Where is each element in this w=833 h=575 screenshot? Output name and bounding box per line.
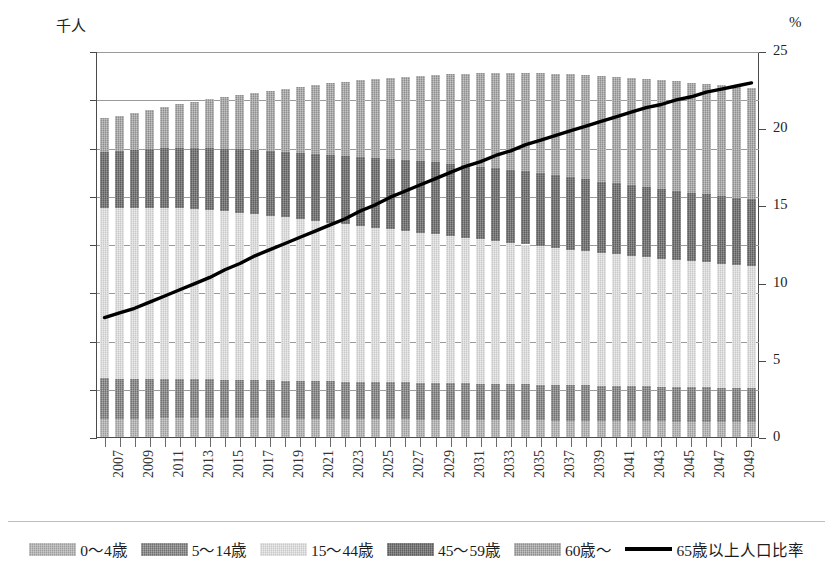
bar-segment [371, 158, 380, 228]
bar-segment [281, 217, 290, 380]
y-tick-left [90, 245, 97, 246]
legend-item[interactable]: 0〜4歳 [29, 538, 128, 560]
legend-color-swatch [29, 543, 76, 556]
x-tick-label: 2027 [411, 450, 427, 478]
bar-segment [627, 185, 636, 255]
bar-segment [687, 422, 696, 437]
bar-segment [597, 76, 606, 181]
x-tick [255, 438, 256, 447]
bar [190, 102, 199, 437]
y-tick-label-right: 5 [773, 351, 833, 368]
bar-segment [341, 419, 350, 437]
bar-segment [747, 199, 756, 266]
y-tick-left [90, 197, 97, 198]
bar-segment [687, 193, 696, 262]
bar-segment [250, 150, 259, 214]
x-tick [120, 438, 121, 447]
legend-item[interactable]: 5〜14歳 [141, 538, 247, 560]
legend-item[interactable]: 65歳以上人口比率 [625, 538, 804, 560]
bar-segment [566, 250, 575, 386]
bar [717, 85, 726, 437]
legend-label: 45〜59歳 [438, 538, 501, 560]
bar-segment [100, 152, 109, 209]
bar-segment [175, 104, 184, 148]
x-tick [676, 438, 677, 447]
bar [160, 107, 169, 437]
x-tick-label: 2019 [291, 450, 307, 478]
bar-segment [612, 183, 621, 254]
bar-segment [461, 383, 470, 419]
legend-item[interactable]: 15〜44歳 [260, 538, 374, 560]
bar [371, 79, 380, 437]
bar-segment [190, 209, 199, 379]
bar-segment [491, 241, 500, 384]
bar-segment [687, 261, 696, 387]
bar [341, 82, 350, 437]
bar-segment [551, 385, 560, 421]
bar-segment [581, 385, 590, 420]
bar-segment [672, 191, 681, 260]
x-tick [541, 438, 542, 447]
bar [687, 83, 696, 437]
x-tick [646, 438, 647, 447]
legend-item[interactable]: 60歳〜 [514, 538, 613, 560]
bar-segment [416, 420, 425, 437]
bar-segment [446, 164, 455, 236]
bar-segment [627, 78, 636, 185]
bar-segment [446, 420, 455, 437]
bar-segment [491, 420, 500, 437]
bar-segment [702, 422, 711, 437]
bar-segment [371, 419, 380, 437]
bar-segment [235, 418, 244, 437]
y-tick-label-right: 25 [773, 42, 833, 59]
bar-segment [702, 84, 711, 194]
bar-segment [702, 194, 711, 262]
y-tick-label-right: 10 [773, 274, 833, 291]
legend-color-swatch [514, 543, 561, 556]
bar-segment [581, 421, 590, 437]
bar-segment [100, 118, 109, 151]
bar [627, 78, 636, 437]
x-tick [706, 438, 707, 447]
bar-segment [175, 208, 184, 379]
bar-segment [371, 228, 380, 382]
bar-segment [341, 382, 350, 419]
bar-segment [642, 257, 651, 386]
bar-segment [581, 179, 590, 251]
bar-segment [747, 266, 756, 388]
bar-segment [220, 418, 229, 437]
bar-segment [115, 151, 124, 208]
bar-segment [115, 116, 124, 151]
bar [115, 116, 124, 437]
bar [702, 84, 711, 437]
bar-segment [311, 419, 320, 437]
bar-segment [296, 219, 305, 381]
x-tick-label: 2041 [622, 450, 638, 478]
y-tick-left [90, 390, 97, 391]
x-tick [631, 438, 632, 447]
y-tick-left [90, 52, 97, 53]
bar-segment [311, 221, 320, 381]
bar-segment [672, 422, 681, 437]
bar-segment [160, 379, 169, 419]
x-tick [135, 438, 136, 447]
bar-segment [491, 168, 500, 241]
bar [597, 76, 606, 437]
bar [506, 73, 515, 437]
bar-segment [536, 420, 545, 437]
x-tick [721, 438, 722, 447]
y-tick-left [90, 100, 97, 101]
bar-segment [115, 208, 124, 378]
bar [491, 73, 500, 437]
legend-color-swatch [141, 543, 188, 556]
bar-segment [205, 99, 214, 148]
x-tick-label: 2047 [712, 450, 728, 478]
bar-segment [160, 148, 169, 208]
x-tick-label: 2031 [472, 450, 488, 478]
bar [612, 77, 621, 437]
x-tick-label: 2021 [321, 450, 337, 478]
bar-segment [551, 74, 560, 175]
bar-segment [220, 97, 229, 149]
legend-item[interactable]: 45〜59歳 [387, 538, 501, 560]
x-tick [661, 438, 662, 447]
